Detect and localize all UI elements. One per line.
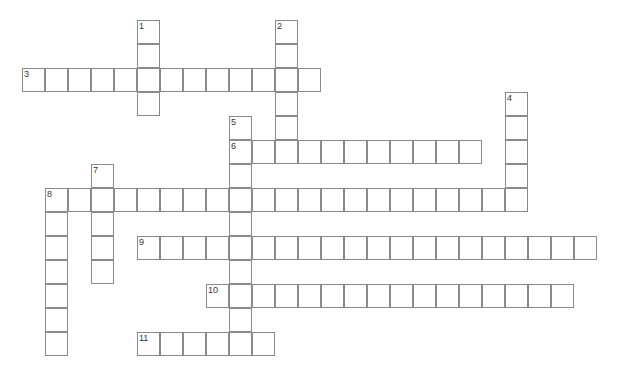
crossword-cell[interactable] (183, 68, 206, 92)
crossword-cell[interactable] (252, 68, 275, 92)
crossword-cell[interactable] (528, 236, 551, 260)
crossword-cell[interactable]: 8 (45, 188, 68, 212)
crossword-cell[interactable] (413, 188, 436, 212)
crossword-cell[interactable] (275, 44, 298, 68)
crossword-cell[interactable]: 11 (137, 332, 160, 356)
crossword-cell[interactable] (229, 284, 252, 308)
crossword-cell[interactable]: 5 (229, 116, 252, 140)
crossword-cell[interactable] (206, 236, 229, 260)
crossword-cell[interactable] (45, 308, 68, 332)
crossword-cell[interactable]: 2 (275, 20, 298, 44)
crossword-cell[interactable]: 3 (22, 68, 45, 92)
crossword-cell[interactable] (252, 236, 275, 260)
crossword-cell[interactable] (206, 68, 229, 92)
crossword-cell[interactable] (505, 284, 528, 308)
crossword-cell[interactable]: 1 (137, 20, 160, 44)
crossword-cell[interactable] (298, 284, 321, 308)
crossword-cell[interactable] (91, 260, 114, 284)
crossword-cell[interactable] (321, 188, 344, 212)
crossword-cell[interactable] (505, 164, 528, 188)
crossword-cell[interactable] (45, 284, 68, 308)
crossword-cell[interactable] (413, 284, 436, 308)
crossword-cell[interactable] (183, 236, 206, 260)
crossword-cell[interactable] (344, 284, 367, 308)
crossword-cell[interactable] (390, 236, 413, 260)
crossword-cell[interactable] (275, 284, 298, 308)
crossword-cell[interactable] (45, 236, 68, 260)
crossword-cell[interactable] (229, 212, 252, 236)
crossword-cell[interactable] (114, 68, 137, 92)
crossword-cell[interactable] (344, 188, 367, 212)
crossword-cell[interactable] (252, 188, 275, 212)
crossword-cell[interactable] (160, 188, 183, 212)
crossword-cell[interactable] (275, 116, 298, 140)
crossword-cell[interactable] (229, 68, 252, 92)
crossword-cell[interactable] (229, 164, 252, 188)
crossword-cell[interactable] (321, 236, 344, 260)
crossword-cell[interactable] (137, 68, 160, 92)
crossword-cell[interactable] (229, 188, 252, 212)
crossword-cell[interactable] (91, 212, 114, 236)
crossword-cell[interactable] (252, 140, 275, 164)
crossword-cell[interactable] (505, 188, 528, 212)
crossword-cell[interactable] (275, 68, 298, 92)
crossword-cell[interactable]: 4 (505, 92, 528, 116)
crossword-cell[interactable] (551, 284, 574, 308)
crossword-cell[interactable] (91, 68, 114, 92)
crossword-cell[interactable]: 7 (91, 164, 114, 188)
crossword-cell[interactable] (45, 332, 68, 356)
crossword-cell[interactable] (275, 140, 298, 164)
crossword-cell[interactable] (436, 140, 459, 164)
crossword-cell[interactable] (390, 284, 413, 308)
crossword-cell[interactable] (505, 236, 528, 260)
crossword-cell[interactable] (206, 188, 229, 212)
crossword-cell[interactable] (482, 188, 505, 212)
crossword-cell[interactable] (68, 188, 91, 212)
crossword-cell[interactable] (160, 68, 183, 92)
crossword-cell[interactable] (390, 188, 413, 212)
crossword-cell[interactable] (114, 188, 137, 212)
crossword-cell[interactable] (45, 68, 68, 92)
crossword-cell[interactable] (137, 188, 160, 212)
crossword-cell[interactable] (160, 236, 183, 260)
crossword-cell[interactable] (574, 236, 597, 260)
crossword-cell[interactable] (298, 236, 321, 260)
crossword-cell[interactable] (413, 140, 436, 164)
crossword-cell[interactable] (298, 188, 321, 212)
crossword-cell[interactable] (275, 188, 298, 212)
crossword-cell[interactable] (275, 236, 298, 260)
crossword-cell[interactable] (321, 140, 344, 164)
crossword-cell[interactable]: 9 (137, 236, 160, 260)
crossword-cell[interactable] (229, 308, 252, 332)
crossword-cell[interactable] (160, 332, 183, 356)
crossword-cell[interactable] (436, 188, 459, 212)
crossword-cell[interactable] (252, 284, 275, 308)
crossword-cell[interactable] (298, 68, 321, 92)
crossword-cell[interactable] (206, 332, 229, 356)
crossword-cell[interactable] (183, 332, 206, 356)
crossword-cell[interactable] (367, 188, 390, 212)
crossword-cell[interactable] (229, 260, 252, 284)
crossword-cell[interactable] (137, 92, 160, 116)
crossword-cell[interactable] (551, 236, 574, 260)
crossword-cell[interactable] (390, 140, 413, 164)
crossword-cell[interactable] (137, 44, 160, 68)
crossword-cell[interactable] (45, 260, 68, 284)
crossword-cell[interactable] (436, 236, 459, 260)
crossword-cell[interactable] (229, 332, 252, 356)
crossword-cell[interactable] (459, 284, 482, 308)
crossword-cell[interactable] (528, 284, 551, 308)
crossword-cell[interactable] (459, 188, 482, 212)
crossword-cell[interactable]: 10 (206, 284, 229, 308)
crossword-cell[interactable]: 6 (229, 140, 252, 164)
crossword-cell[interactable] (183, 188, 206, 212)
crossword-cell[interactable] (482, 284, 505, 308)
crossword-cell[interactable] (413, 236, 436, 260)
crossword-cell[interactable] (68, 68, 91, 92)
crossword-cell[interactable] (45, 212, 68, 236)
crossword-cell[interactable] (367, 140, 390, 164)
crossword-cell[interactable] (344, 140, 367, 164)
crossword-cell[interactable] (321, 284, 344, 308)
crossword-cell[interactable] (436, 284, 459, 308)
crossword-cell[interactable] (275, 92, 298, 116)
